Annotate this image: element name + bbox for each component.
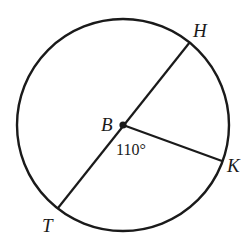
center-point-b — [119, 121, 126, 128]
circle-diagram: B H K T 110° — [0, 0, 250, 245]
label-k: K — [226, 155, 241, 176]
label-h: H — [192, 20, 208, 41]
angle-label-tbk: 110° — [116, 141, 146, 158]
label-t: T — [42, 215, 54, 236]
label-b: B — [101, 114, 113, 135]
